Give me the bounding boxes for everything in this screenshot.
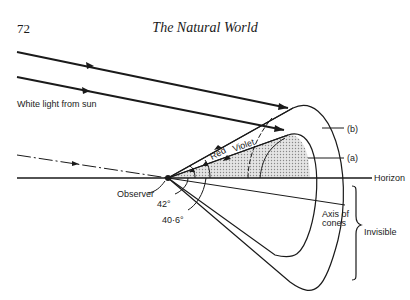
arrow-icon [72,161,79,166]
label-cones: cones [322,218,347,228]
arrow-icon [278,103,288,110]
label-invisible: Invisible [364,227,397,237]
label-b: (b) [347,124,358,134]
label-white-light: White light from sun [17,99,97,109]
observer-dot [165,175,171,181]
outer-cone [168,105,343,290]
brace-icon [352,186,361,280]
label-horizon: Horizon [374,173,405,183]
label-observer: Observer [117,189,154,199]
arrow-icon [274,125,284,132]
label-a: (a) [347,153,358,163]
sun-rays [17,52,288,130]
label-angle-42: 42° [157,199,171,209]
dashed-line [17,155,168,178]
label-angle-40-6: 40·6° [162,215,184,225]
arrow-icon [82,87,90,94]
rainbow-diagram: White light from sun Red Violet (b) (a) … [0,0,410,300]
